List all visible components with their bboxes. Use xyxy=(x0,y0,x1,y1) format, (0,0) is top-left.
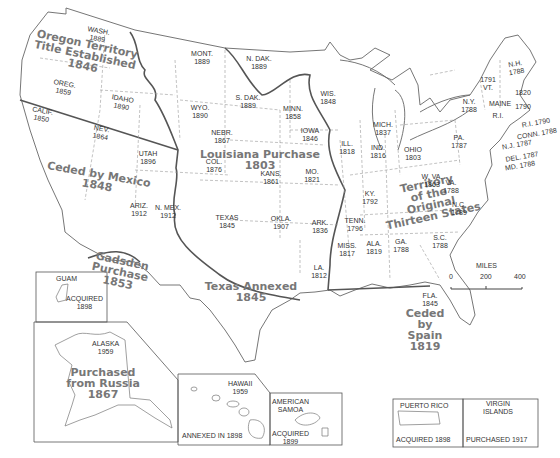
state-label: FLA.1845 xyxy=(422,292,438,308)
state-label: S.C.1788 xyxy=(432,234,448,250)
samoa-name: AMERICANSAMOA xyxy=(272,398,309,414)
state-label: MINN.1858 xyxy=(283,105,303,121)
state-label: N.Y.1788 xyxy=(461,98,477,114)
region-texas-annexed: Texas Annexed 1845 xyxy=(205,281,297,303)
state-label: NEBR.1867 xyxy=(211,129,232,145)
state-label: COL.1876 xyxy=(206,158,222,174)
state-label: WIS.1848 xyxy=(320,90,336,106)
state-label: LA.1812 xyxy=(311,264,327,280)
state-label: TENN.1796 xyxy=(345,217,366,233)
scale-bar xyxy=(451,286,522,289)
hawaii-note: ANNEXED IN 1898 xyxy=(182,432,242,440)
puerto-rico-note: ACQUIRED 1898 xyxy=(396,436,450,444)
state-label: N. MEX.1912 xyxy=(155,204,181,220)
state-label: MICH.1837 xyxy=(373,121,393,137)
state-label: OHIO1803 xyxy=(404,146,422,162)
state-label: IND.1816 xyxy=(370,144,386,160)
hawaii-name: HAWAII1959 xyxy=(228,380,252,396)
scale-title: MILES xyxy=(476,262,497,269)
state-label: R.I. xyxy=(493,112,504,120)
state-label: WYO.1890 xyxy=(191,104,210,120)
state-label: 1820 xyxy=(515,89,531,97)
samoa-acquired: ACQUIRED1899 xyxy=(272,430,309,446)
state-label: MONT.1889 xyxy=(191,50,213,66)
state-label: N. DAK.1889 xyxy=(246,55,271,71)
state-label: ARK.1836 xyxy=(312,219,328,235)
state-label: OKLA.1907 xyxy=(271,215,292,231)
state-label: ARIZ.1912 xyxy=(130,202,148,218)
scale-tick: 0 xyxy=(449,273,453,280)
state-label: UTAH1896 xyxy=(139,150,158,166)
puerto-rico-name: PUERTO RICO xyxy=(400,402,448,410)
state-label: PA.1787 xyxy=(451,134,467,150)
state-label: N.C.1789 xyxy=(451,201,467,217)
state-label: S. DAK.1889 xyxy=(236,94,261,110)
state-label: CALIF.1850 xyxy=(30,105,53,124)
state-label: W. VA.1863 xyxy=(422,173,443,189)
region-ceded-by-spain: Ceded by Spain 1819 xyxy=(406,308,445,352)
guam-name: GUAM xyxy=(56,275,77,283)
state-label: ALA.1819 xyxy=(366,240,382,256)
state-label: KY.1792 xyxy=(362,190,378,206)
state-label: 1790 xyxy=(515,103,531,111)
state-label: MO.1821 xyxy=(304,168,320,184)
virgin-islands-note: PURCHASED 1917 xyxy=(466,436,527,444)
state-label: VA.1788 xyxy=(443,179,459,195)
state-label: ILL.1818 xyxy=(339,140,355,156)
guam-acquired: ACQUIRED1898 xyxy=(66,295,103,311)
state-label: N.H.1788 xyxy=(507,59,525,77)
virgin-islands-name: VIRGINISLANDS xyxy=(483,400,513,416)
scale-tick: 200 xyxy=(480,273,492,280)
region-purchased-from-russia: Purchased from Russia 1867 xyxy=(66,367,140,400)
state-label: IOWA1846 xyxy=(301,127,319,143)
state-label: TEXAS1845 xyxy=(216,214,239,230)
state-label: MISS.1817 xyxy=(337,242,356,258)
scale-tick: 400 xyxy=(514,273,526,280)
state-label: 1791VT. xyxy=(480,76,496,92)
state-label: MAINE xyxy=(489,100,511,108)
puerto-rico-outline xyxy=(398,411,440,425)
state-label: GA.1788 xyxy=(393,238,409,254)
state-label: NEV.1864 xyxy=(92,124,110,142)
state-label: KANS.1861 xyxy=(260,170,281,186)
alaska-name: ALASKA1959 xyxy=(92,340,119,356)
